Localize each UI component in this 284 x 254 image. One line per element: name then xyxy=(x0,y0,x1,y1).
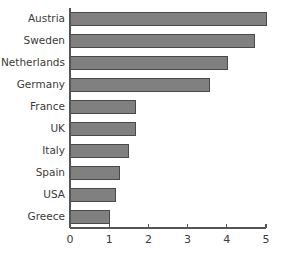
category-labels-group: AustriaSwedenNetherlandsGermanyFranceUKI… xyxy=(1,12,66,222)
bar-france xyxy=(70,101,136,114)
category-label-spain: Spain xyxy=(36,166,65,178)
category-label-netherlands: Netherlands xyxy=(1,56,65,68)
x-tick-label-1: 1 xyxy=(106,233,113,246)
x-tick-label-0: 0 xyxy=(67,233,74,246)
chart-canvas: AustriaSwedenNetherlandsGermanyFranceUKI… xyxy=(0,0,284,254)
bar-netherlands xyxy=(70,57,228,70)
category-label-france: France xyxy=(30,100,65,112)
bar-chart: AustriaSwedenNetherlandsGermanyFranceUKI… xyxy=(0,0,284,254)
category-label-italy: Italy xyxy=(42,144,65,156)
bar-austria xyxy=(70,13,266,26)
bars-group xyxy=(70,13,266,224)
x-tick-label-3: 3 xyxy=(184,233,191,246)
bar-uk xyxy=(70,123,135,136)
x-axis-group: 012345 xyxy=(67,224,270,246)
x-tick-label-2: 2 xyxy=(145,233,152,246)
category-label-germany: Germany xyxy=(17,78,65,90)
x-tick-label-5: 5 xyxy=(263,233,270,246)
category-label-greece: Greece xyxy=(28,210,65,222)
bar-spain xyxy=(70,167,120,180)
bar-usa xyxy=(70,189,115,202)
category-label-austria: Austria xyxy=(28,12,65,24)
bar-sweden xyxy=(70,35,254,48)
category-label-uk: UK xyxy=(50,122,66,134)
bar-italy xyxy=(70,145,129,158)
category-label-sweden: Sweden xyxy=(24,34,66,46)
bar-germany xyxy=(70,79,209,92)
bar-greece xyxy=(70,211,109,224)
category-label-usa: USA xyxy=(43,188,66,200)
x-axis-tick-labels: 012345 xyxy=(67,233,270,246)
x-tick-label-4: 4 xyxy=(223,233,230,246)
